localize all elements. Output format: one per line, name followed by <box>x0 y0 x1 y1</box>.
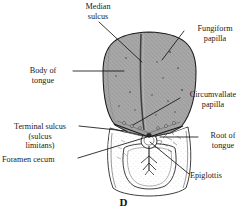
label-foramen-cecum: Foramen cecum <box>2 155 78 165</box>
tongue-body <box>100 32 199 140</box>
label-circumvallate-papilla: Circumvallate papilla <box>182 90 244 109</box>
foramen-cecum-pit <box>147 133 152 136</box>
label-median-sulcus: Median sulcus <box>66 2 130 21</box>
anatomy-figure: Median sulcus Fungiform papilla Body of … <box>0 0 247 215</box>
label-fungiform-papilla: Fungiform papilla <box>186 24 244 43</box>
label-body-of-tongue: Body of tongue <box>14 66 72 85</box>
label-epiglottis: Epiglottis <box>190 171 244 181</box>
label-terminal-sulcus: Terminal sulcus (sulcus limitans) <box>2 122 78 151</box>
label-root-of-tongue: Root of tongue <box>200 131 246 150</box>
figure-letter: D <box>0 196 247 208</box>
